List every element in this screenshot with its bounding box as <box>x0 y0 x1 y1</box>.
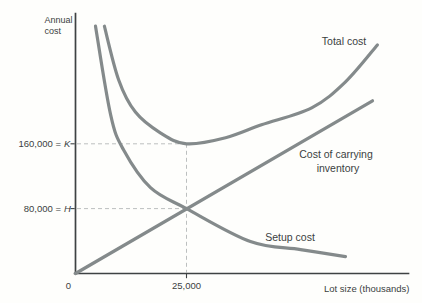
carrying-cost-label-line2: inventory <box>317 162 360 174</box>
x-tick-label: 25,000 <box>172 280 201 291</box>
origin-label: 0 <box>66 280 71 291</box>
y-axis-title-line2: cost <box>45 26 62 36</box>
y-tick-k-label: 160,000 = <box>18 138 61 149</box>
carrying-cost-label-line1: Cost of carrying <box>299 148 373 160</box>
setup-cost-curve <box>96 26 346 256</box>
y-tick-k-symbol: K <box>64 138 71 149</box>
x-axis-title: Lot size (thousands) <box>324 283 410 294</box>
y-tick-h-symbol: H <box>64 203 71 214</box>
text-labels: Annual cost 160,000 = K 80,000 = H 0 25,… <box>18 15 409 295</box>
eoq-cost-figure: Annual cost 160,000 = K 80,000 = H 0 25,… <box>0 0 422 303</box>
chart-canvas: Annual cost 160,000 = K 80,000 = H 0 25,… <box>0 0 422 303</box>
carrying-cost-line <box>76 101 373 274</box>
y-axis-title-line1: Annual <box>45 15 73 25</box>
setup-cost-label: Setup cost <box>265 231 315 243</box>
total-cost-label: Total cost <box>322 35 366 47</box>
y-tick-h-label: 80,000 = <box>24 203 62 214</box>
